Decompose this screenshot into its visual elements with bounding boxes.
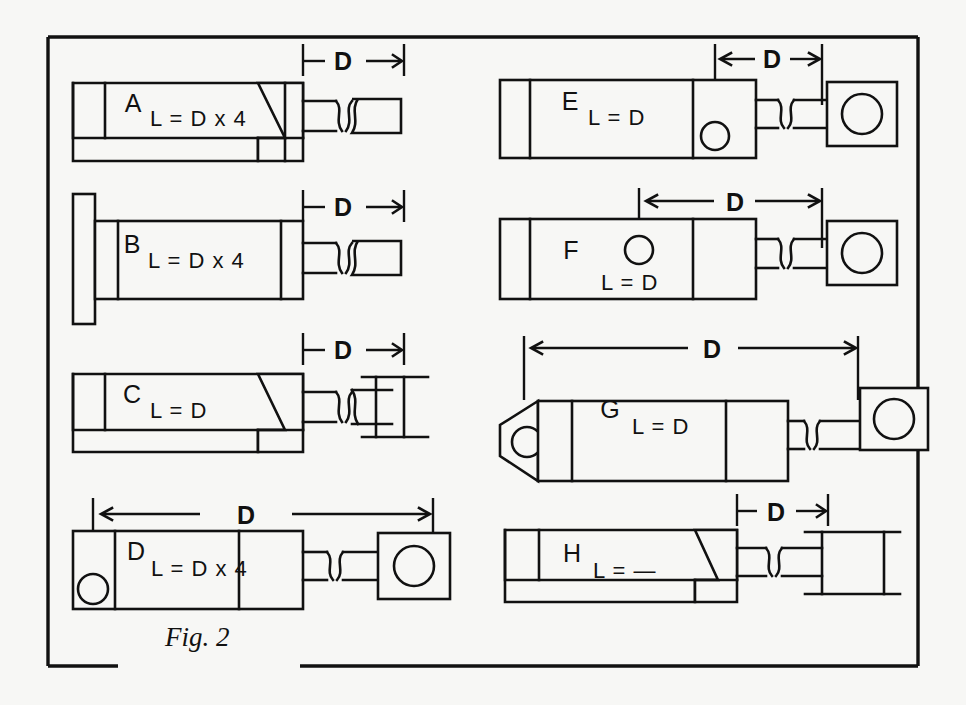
item-D-dimension-label: D [237,501,255,529]
item-H-letter: H [563,539,581,567]
item-F-end-fitting [827,221,897,285]
item-E-rod [756,100,829,128]
item-G-rod [788,421,862,449]
item-F-formula: L = D [601,270,658,295]
item-B-letter: B [124,230,141,258]
item-F-rod [756,239,829,268]
item-F-end-eye [842,233,882,273]
item-F-trunnion-eye [625,236,653,264]
item-E-end-fitting [827,82,897,146]
item-D-letter: D [127,537,145,565]
item-H-dimension-label: D [767,498,785,526]
item-E-trunnion-eye [701,122,729,150]
item-C-letter: C [123,380,141,408]
figure-2-diagram: D A L = D x 4 [0,0,966,705]
item-H-dimension: D [737,494,828,526]
item-G: D G L = D [500,335,928,481]
item-A-dimension: D [303,44,404,76]
item-F: D F L = D [500,188,897,299]
item-D-rod [303,552,380,580]
item-B: D B L = D x 4 [73,190,404,324]
item-B-dimension: D [303,190,404,222]
figure-caption: Fig. 2 [164,622,230,652]
item-G-end-fitting [860,388,928,450]
item-C: D [73,333,428,452]
item-B-dimension-label: D [334,193,352,221]
item-B-formula: L = D x 4 [148,248,245,273]
item-G-dimension-label: D [703,335,721,363]
item-B-rod [303,241,401,275]
item-G-letter: G [600,395,619,423]
item-G-body [500,401,788,481]
item-E-end-eye [842,94,882,134]
item-G-formula: L = D [632,414,689,439]
item-A: D A L = D x 4 [73,44,404,161]
item-D-formula: L = D x 4 [151,556,248,581]
item-E-dimension-label: D [763,45,781,73]
item-C-formula: L = D [150,398,207,423]
item-C-dimension-label: D [334,336,352,364]
item-C-dimension: D [303,333,404,365]
item-E-formula: L = D [588,105,645,130]
item-G-dimension: D [524,335,858,400]
item-A-formula: L = D x 4 [150,106,247,131]
item-G-end-eye [874,399,914,439]
item-H-end-fitting [805,532,900,594]
item-D-end-fitting [378,533,450,599]
item-D-end-eye [394,546,434,586]
item-A-dimension-label: D [334,47,352,75]
item-F-letter: F [563,236,578,264]
item-C-rod [303,390,392,424]
item-D: D D L = D x 4 [73,498,450,609]
cylinder-variants-drawing: D A L = D x 4 [0,0,966,705]
item-C-end-fitting [362,377,428,437]
item-E-letter: E [562,87,579,115]
item-A-rod [303,99,401,133]
item-A-letter: A [125,89,142,117]
item-H-formula: L = — [593,558,657,583]
item-D-pivot-eye [78,574,108,604]
item-E: D E L = D [500,44,897,158]
item-H-rod [737,548,822,576]
item-H: D H [505,494,900,602]
item-F-dimension-label: D [726,188,744,216]
